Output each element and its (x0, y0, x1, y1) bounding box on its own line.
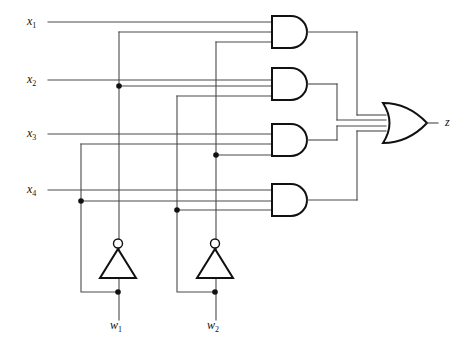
or-gate (383, 103, 438, 143)
junction-dot (213, 152, 219, 158)
wire-w2-branch-to-rail (177, 210, 215, 292)
and-gate-body (272, 68, 307, 100)
wires-mid-rails (81, 96, 272, 210)
input-label-x3: x3 (27, 126, 36, 142)
select-label-w1: w1 (110, 318, 122, 334)
and-gate-body (272, 184, 307, 216)
inverter-2 (197, 239, 233, 278)
or-gate-body (383, 103, 427, 143)
input-label-x4: x4 (27, 182, 36, 198)
and-gate-body (272, 16, 307, 48)
junction-dot (212, 289, 218, 295)
circuit-diagram-canvas: x1 x2 x3 x4 w1 w2 z (0, 0, 475, 349)
and-gate-body (272, 124, 307, 156)
circuit-svg (0, 0, 475, 349)
junction-dot (115, 289, 121, 295)
inverter-triangle (100, 249, 136, 278)
inverter-bubble-icon (114, 239, 123, 248)
junction-dot (116, 83, 122, 89)
junction-dot (78, 198, 84, 204)
inverter-bubble-icon (211, 239, 220, 248)
and-gate-3 (272, 124, 386, 156)
output-label-z: z (445, 115, 450, 130)
junction-dots (78, 83, 219, 295)
and-gate-2 (272, 68, 386, 120)
junction-dot (174, 207, 180, 213)
input-wires (48, 22, 272, 190)
inverter-triangle (197, 249, 233, 278)
select-label-w2: w2 (207, 318, 219, 334)
input-label-x2: x2 (27, 72, 36, 88)
input-label-x1: x1 (27, 14, 36, 30)
inverter-1 (100, 239, 136, 278)
